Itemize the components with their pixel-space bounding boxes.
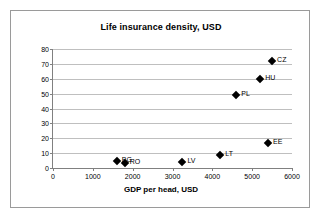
y-tick-label: 10 bbox=[41, 150, 49, 157]
data-point-label: LT bbox=[225, 150, 233, 157]
y-tick-label: 50 bbox=[41, 90, 49, 97]
x-tick-label: 1000 bbox=[85, 173, 101, 180]
x-tick-label: 4000 bbox=[205, 173, 221, 180]
chart-title: Life insurance density, USD bbox=[11, 22, 311, 32]
gridline-horizontal bbox=[53, 123, 292, 124]
x-tick-label: 5000 bbox=[244, 173, 260, 180]
y-tick-label: 20 bbox=[41, 135, 49, 142]
x-tick-mark bbox=[292, 168, 293, 171]
x-tick-mark bbox=[53, 168, 54, 171]
chart-screenshot: Life insurance density, USD 010203040506… bbox=[0, 0, 321, 219]
gridline-horizontal bbox=[53, 49, 292, 50]
x-tick-label: 3000 bbox=[165, 173, 181, 180]
gridline-horizontal bbox=[53, 109, 292, 110]
x-tick-label: 2000 bbox=[125, 173, 141, 180]
y-tick-label: 40 bbox=[41, 105, 49, 112]
y-tick-mark bbox=[50, 49, 53, 50]
y-tick-mark bbox=[50, 79, 53, 80]
chart-frame: Life insurance density, USD 010203040506… bbox=[10, 10, 310, 208]
x-tick-mark bbox=[133, 168, 134, 171]
plot-area: 0102030405060708001000200030004000500060… bbox=[52, 49, 292, 169]
x-tick-mark bbox=[252, 168, 253, 171]
data-point-label: EE bbox=[273, 138, 282, 145]
y-tick-label: 70 bbox=[41, 60, 49, 67]
x-tick-mark bbox=[173, 168, 174, 171]
data-point-label: LV bbox=[187, 157, 195, 164]
data-point-label: CZ bbox=[277, 56, 286, 63]
x-tick-mark bbox=[93, 168, 94, 171]
y-tick-mark bbox=[50, 138, 53, 139]
y-tick-mark bbox=[50, 94, 53, 95]
data-point-marker bbox=[232, 91, 240, 99]
y-tick-label: 0 bbox=[45, 165, 49, 172]
gridline-horizontal bbox=[53, 64, 292, 65]
gridline-horizontal bbox=[53, 138, 292, 139]
y-tick-label: 30 bbox=[41, 120, 49, 127]
data-point-marker bbox=[264, 138, 272, 146]
data-point-marker bbox=[112, 156, 120, 164]
x-tick-label: 6000 bbox=[284, 173, 300, 180]
x-axis-title: GDP per head, USD bbox=[11, 185, 311, 194]
y-tick-mark bbox=[50, 123, 53, 124]
y-tick-mark bbox=[50, 153, 53, 154]
data-point-label: PL bbox=[241, 90, 250, 97]
y-tick-label: 60 bbox=[41, 75, 49, 82]
data-point-label: RO bbox=[130, 158, 141, 165]
gridline-horizontal bbox=[53, 153, 292, 154]
x-tick-label: 0 bbox=[51, 173, 55, 180]
y-tick-mark bbox=[50, 109, 53, 110]
y-tick-label: 80 bbox=[41, 46, 49, 53]
y-tick-mark bbox=[50, 64, 53, 65]
data-point-marker bbox=[178, 158, 186, 166]
data-point-label: HU bbox=[265, 74, 275, 81]
data-point-marker bbox=[256, 75, 264, 83]
gridline-horizontal bbox=[53, 94, 292, 95]
x-tick-mark bbox=[212, 168, 213, 171]
